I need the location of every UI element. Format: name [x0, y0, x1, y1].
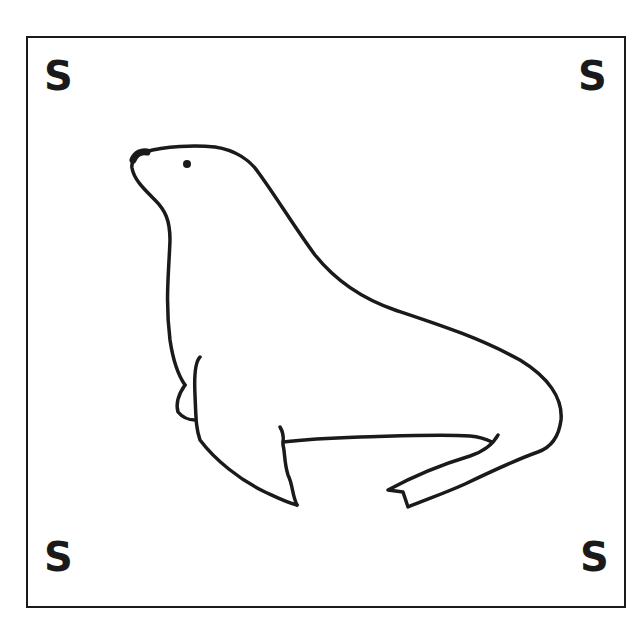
sea-lion-rear-flipper: [280, 427, 297, 505]
sea-lion-snout: [132, 152, 185, 385]
sea-lion-drawing: [0, 0, 639, 625]
sea-lion-back-outline: [145, 146, 561, 507]
sea-lion-front-flipper: [177, 385, 195, 420]
sea-lion-belly-line: [283, 435, 492, 442]
sea-lion-eye: [183, 160, 191, 168]
